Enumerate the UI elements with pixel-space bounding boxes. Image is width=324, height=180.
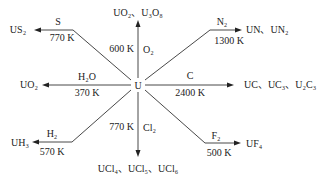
nitrogen-temperature: 1300 K — [214, 35, 245, 46]
arrowhead-icon — [34, 28, 41, 33]
sulfur-reagent: S — [55, 16, 61, 27]
arrowhead-icon — [234, 141, 241, 146]
fluorine-reagent: F₂ — [211, 130, 220, 141]
arrowhead-icon — [235, 28, 242, 33]
fluorine-product: UF₄ — [246, 138, 263, 149]
arrowhead-icon — [32, 140, 39, 145]
carbon-product: UC、UC₃、U₂C₃ — [244, 79, 316, 90]
carbon-reagent: C — [187, 70, 194, 81]
water-reagent: H₂O — [78, 71, 96, 82]
arrowhead-icon — [136, 150, 141, 157]
center-element-label: U — [134, 80, 142, 91]
hydrogen-temperature: 570 K — [40, 146, 66, 157]
arrowhead-icon — [136, 20, 141, 27]
fluorine-temperature: 500 K — [207, 147, 233, 158]
arrowhead-icon — [42, 83, 49, 88]
carbon-temperature: 2400 K — [175, 87, 206, 98]
water-product: UO₂ — [20, 79, 38, 90]
nitrogen-product: UN、UN₂ — [246, 24, 288, 35]
chlorine-temperature: 770 K — [109, 121, 135, 132]
nitrogen-reagent: N₂ — [217, 16, 228, 27]
sulfur-product: US₂ — [10, 24, 26, 35]
water-temperature: 370 K — [75, 87, 101, 98]
oxygen-product: UO₂、U₃O₈ — [113, 7, 163, 18]
hydrogen-product: UH₃ — [11, 137, 29, 148]
hydrogen-reagent: H₂ — [47, 128, 58, 139]
chlorine-product: UCl₄、UCl₅、UCl₆ — [98, 163, 179, 174]
oxygen-temperature: 600 K — [109, 43, 135, 54]
arrowhead-icon — [227, 83, 234, 88]
oxygen-reagent: O₂ — [143, 44, 154, 55]
chlorine-reagent: Cl₂ — [143, 122, 156, 133]
uranium-reaction-diagram: U US₂ S 770 K UO₂、U₃O₈ 600 K O₂ UN、UN₂ N… — [0, 0, 324, 180]
sulfur-temperature: 770 K — [50, 32, 76, 43]
